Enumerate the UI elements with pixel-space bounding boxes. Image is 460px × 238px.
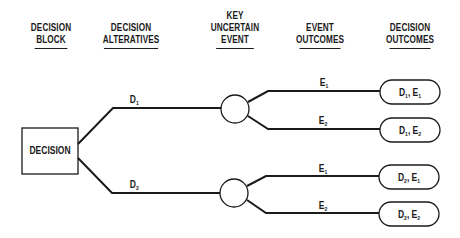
header-line: DECISION xyxy=(385,22,434,34)
event-label-d2-e1: E1 xyxy=(319,164,328,174)
label-sub: 1 xyxy=(136,100,139,106)
header-underline xyxy=(216,48,254,49)
header-line: OUTCOMES xyxy=(295,34,344,46)
branch-d2-e2 xyxy=(247,200,379,213)
label-sub: 1 xyxy=(417,178,420,184)
decision-box-label: DECISION xyxy=(26,145,74,156)
branch-d2 xyxy=(78,158,220,193)
header-line: BLOCK xyxy=(27,34,75,46)
header-event-outcomes: EVENT OUTCOMES xyxy=(295,22,344,49)
chance-node-1 xyxy=(221,95,249,123)
event-label-d2-e2: E2 xyxy=(319,201,328,211)
header-line: OUTCOMES xyxy=(385,34,434,46)
branch-d2-e1 xyxy=(247,176,379,186)
label-sub: 2 xyxy=(417,215,420,221)
outcome-label-d1-e1: D1, E1 xyxy=(385,87,436,98)
label-sub: 2 xyxy=(136,185,139,191)
label-sub: 1 xyxy=(325,83,328,89)
header-line: DECISION xyxy=(102,22,159,34)
branch-d1 xyxy=(78,108,221,144)
alternative-label-d2: D2 xyxy=(130,180,139,190)
event-label-d1-e2: E2 xyxy=(319,116,328,126)
label-sub: 1 xyxy=(324,169,327,175)
header-line: KEY xyxy=(206,10,263,22)
header-underline xyxy=(300,48,341,49)
header-line: ALTERATIVES xyxy=(102,34,159,46)
outcome-label-d2-e2: D2, E2 xyxy=(384,209,435,220)
event-label-d1-e1: E1 xyxy=(320,78,329,88)
branch-d1-e2 xyxy=(248,116,380,129)
header-line: DECISION xyxy=(27,22,75,34)
header-decision-block: DECISION BLOCK xyxy=(27,22,75,49)
label-sub: 2 xyxy=(324,206,327,212)
outcome-label-d1-e2: D1, E2 xyxy=(385,125,436,136)
header-decision-alternatives: DECISION ALTERATIVES xyxy=(102,22,159,49)
label-sub: 2 xyxy=(418,131,421,137)
branch-d1-e1 xyxy=(248,91,380,102)
header-line: EVENT xyxy=(295,22,344,34)
header-underline xyxy=(390,48,431,49)
chance-node-2 xyxy=(220,179,248,207)
label-sub: 1 xyxy=(418,93,421,99)
header-line: UNCERTAIN xyxy=(206,22,263,34)
header-underline xyxy=(104,48,158,49)
outcome-label-d2-e1: D2, E1 xyxy=(384,172,435,183)
header-key-uncertain-event: KEY UNCERTAIN EVENT xyxy=(206,10,263,49)
alternative-label-d1: D1 xyxy=(130,95,139,105)
header-decision-outcomes: DECISION OUTCOMES xyxy=(385,22,434,49)
label-sub: 2 xyxy=(324,121,327,127)
header-underline xyxy=(35,48,68,49)
header-line: EVENT xyxy=(206,34,263,46)
